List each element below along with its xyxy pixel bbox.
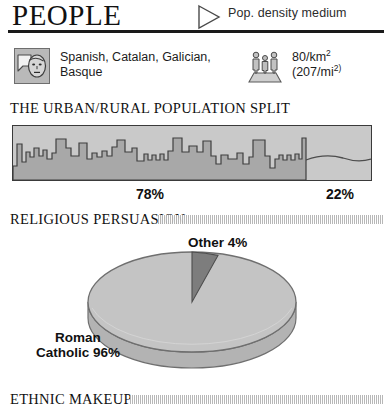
three-people-icon [246,48,284,84]
header-divider [8,30,384,33]
pie-catholic-label-line2: Catholic 96% [28,345,128,360]
languages-value: Spanish, Catalan, Galician, Basque [60,50,240,80]
speaking-face-icon [14,48,50,84]
urban-percentage-label: 78% [110,186,190,202]
urban-rural-split-chart [12,125,372,181]
density-summary-label: Pop. density medium [228,6,347,20]
urban-rural-subhead: THE URBAN/RURAL POPULATION SPLIT [10,100,290,117]
page-title: PEOPLE [12,0,121,31]
religion-hatch-rule [158,215,384,224]
density-value-imperial: (207/mi2) [292,65,384,80]
pie-catholic-label: Roman Catholic 96% [28,330,128,360]
density-value: 80/km2 (207/mi2) [292,50,384,80]
facts-row: Spanish, Catalan, Galician, Basque 80/km… [0,44,384,90]
rural-percentage-label: 22% [310,186,370,202]
ethnic-subhead: ETHNIC MAKEUP [10,391,132,408]
pie-catholic-label-line1: Roman [28,330,128,345]
urban-rural-svg [13,126,371,180]
page-header: PEOPLE Pop. density medium [0,0,384,34]
ethnic-hatch-rule [130,395,384,404]
